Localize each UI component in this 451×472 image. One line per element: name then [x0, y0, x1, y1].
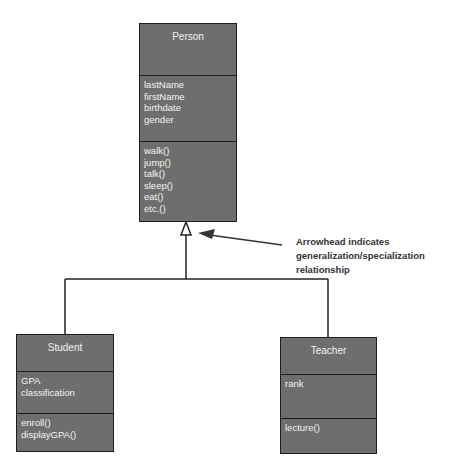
class-teacher: Teacher rank lecture() — [280, 337, 377, 454]
class-person: Person lastName firstName birthdate gend… — [139, 23, 237, 222]
annotation-line: relationship — [296, 263, 425, 277]
attribute: GPA — [21, 375, 113, 387]
operation: sleep() — [144, 180, 236, 192]
annotation-note: Arrowhead indicates generalization/speci… — [296, 235, 425, 277]
attribute: lastName — [144, 79, 236, 91]
operation: talk() — [144, 168, 236, 180]
class-name-section: Teacher — [281, 338, 376, 374]
operations-section: walk() jump() talk() sleep() eat() etc.(… — [140, 141, 236, 220]
attributes-section: GPA classification — [17, 371, 113, 413]
operation: eat() — [144, 191, 236, 203]
attribute: birthdate — [144, 102, 236, 114]
class-name-section: Person — [140, 24, 236, 75]
attribute: classification — [21, 387, 113, 399]
attribute: gender — [144, 114, 236, 126]
class-name-section: Student — [17, 335, 113, 371]
operations-section: lecture() — [281, 418, 376, 452]
class-name: Teacher — [311, 345, 347, 356]
class-student: Student GPA classification enroll() disp… — [16, 334, 114, 452]
annotation-line: generalization/specialization — [296, 249, 425, 263]
attributes-section: rank — [281, 374, 376, 418]
attributes-section: lastName firstName birthdate gender — [140, 75, 236, 141]
operation: etc.() — [144, 203, 236, 215]
operation: lecture() — [285, 422, 376, 434]
operation: enroll() — [21, 417, 113, 429]
operation: displayGPA() — [21, 429, 113, 441]
attribute: firstName — [144, 91, 236, 103]
operation: walk() — [144, 145, 236, 157]
pointer-arrow-icon — [198, 229, 215, 239]
attribute: rank — [285, 378, 376, 390]
class-name: Student — [48, 342, 82, 353]
operation: jump() — [144, 157, 236, 169]
generalization-arrowhead-icon — [181, 222, 191, 235]
annotation-line: Arrowhead indicates — [296, 235, 425, 249]
class-name: Person — [172, 31, 204, 42]
operations-section: enroll() displayGPA() — [17, 413, 113, 450]
